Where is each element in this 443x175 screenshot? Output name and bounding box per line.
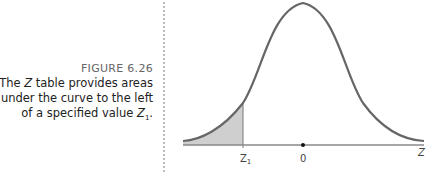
- label-zero: 0: [300, 153, 306, 164]
- bell-curve: [183, 3, 424, 141]
- label-z1: Z1: [240, 153, 251, 166]
- normal-curve-diagram: Z1 0 Z: [0, 0, 443, 175]
- label-z: Z: [417, 147, 426, 158]
- zero-point: [301, 143, 305, 147]
